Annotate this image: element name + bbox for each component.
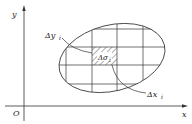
svg-text:i: i <box>161 93 163 100</box>
delta-x-label: Δx i <box>146 90 163 100</box>
origin-label: O <box>13 109 20 118</box>
svg-text:Δx: Δx <box>146 90 158 99</box>
delta-y-leader <box>62 38 92 53</box>
y-axis <box>22 5 25 121</box>
svg-text:Δσ: Δσ <box>97 54 108 62</box>
double-integral-partition-diagram: y x O Δy i Δσ i Δx i <box>0 0 192 124</box>
x-axis <box>5 104 188 107</box>
svg-text:Δy: Δy <box>44 31 56 40</box>
delta-y-label: Δy i <box>44 31 61 41</box>
svg-text:i: i <box>109 56 111 63</box>
x-axis-arrow-icon <box>182 104 188 107</box>
delta-sigma-label: Δσ i <box>97 54 111 63</box>
svg-text:i: i <box>59 34 61 41</box>
y-axis-label: y <box>11 10 17 19</box>
y-axis-arrow-icon <box>22 5 25 11</box>
x-axis-label: x <box>182 110 187 119</box>
